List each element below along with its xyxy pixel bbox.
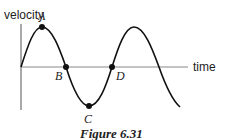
figure-caption: Figure 6.31 bbox=[79, 126, 143, 140]
point-b-label: B bbox=[55, 69, 63, 83]
point-d-label: D bbox=[115, 69, 125, 83]
point-b-marker bbox=[63, 64, 69, 70]
velocity-time-diagram: velocity time A B C D Figure 6.31 bbox=[0, 0, 231, 140]
point-a-label: A bbox=[37, 9, 46, 23]
x-axis-label: time bbox=[193, 60, 216, 74]
point-c-label: C bbox=[84, 112, 93, 126]
point-d-marker bbox=[109, 64, 115, 70]
point-a-marker bbox=[39, 24, 45, 30]
point-c-marker bbox=[86, 103, 92, 109]
